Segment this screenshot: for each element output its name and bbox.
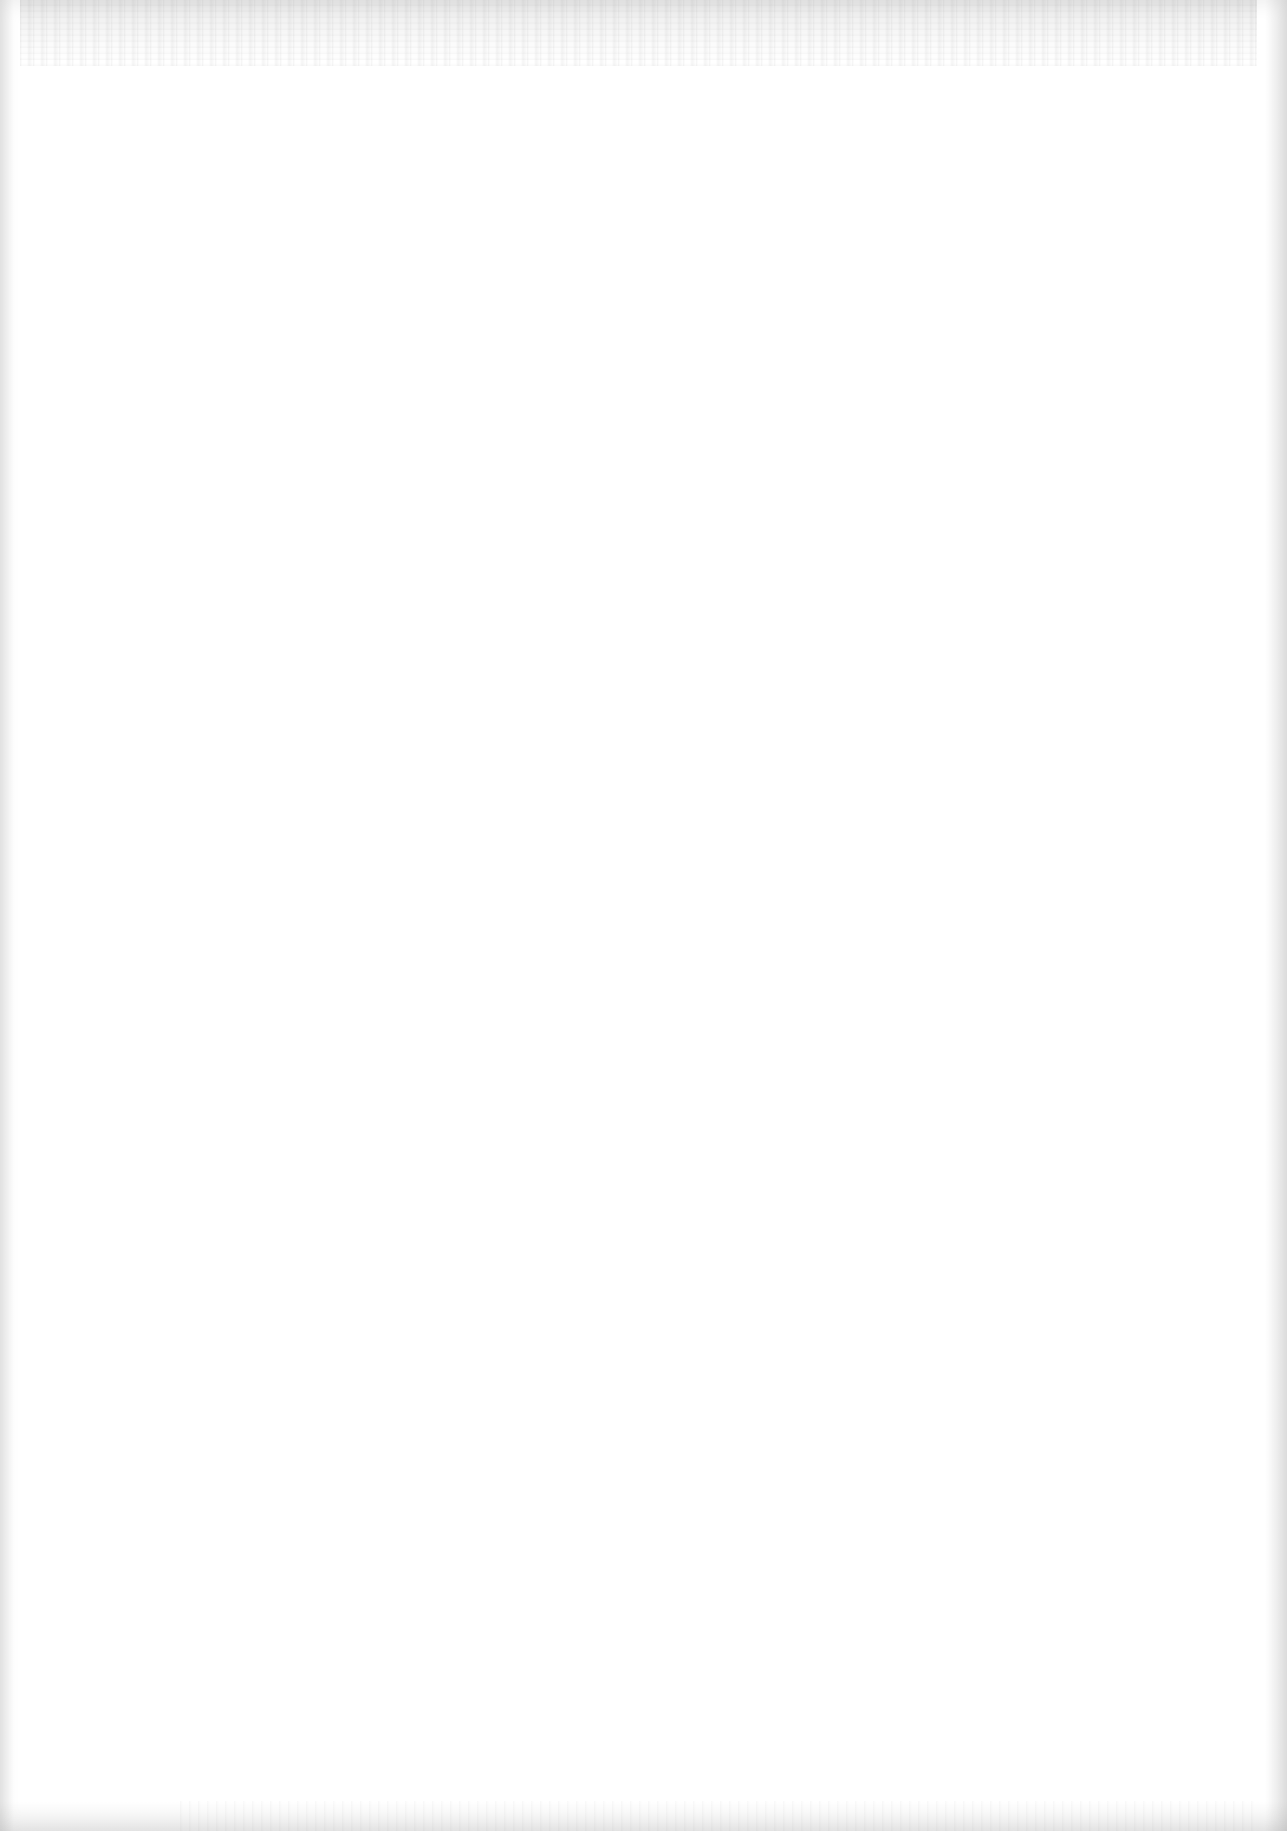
- page-content-area: [80, 120, 1207, 1711]
- blank-page: [0, 0, 1287, 1831]
- scan-noise-band-top: [20, 0, 1257, 66]
- page-edge-shadow-left: [0, 0, 14, 1831]
- scan-noise-band-bottom: [180, 1801, 1257, 1831]
- page-edge-shadow-right: [1265, 0, 1287, 1831]
